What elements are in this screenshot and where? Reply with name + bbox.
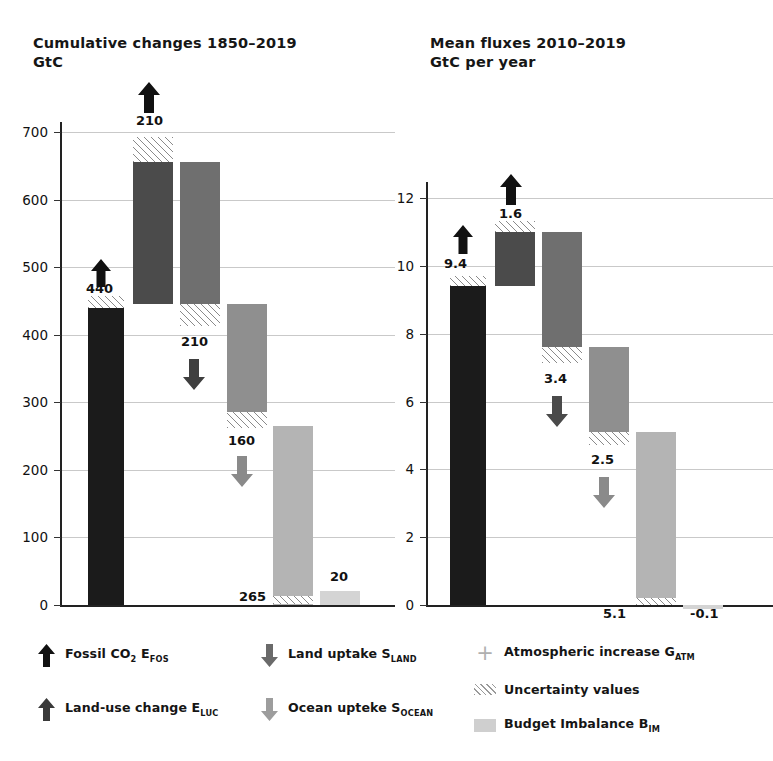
y-tick-label-0: 0: [8, 597, 48, 613]
uncertainty-hatch-ocean-uptake-right: [589, 432, 629, 445]
y-tick-200: [54, 470, 61, 471]
y-tick-6: [420, 402, 427, 403]
y-tick-label-100: 100: [8, 529, 48, 545]
arrow-up-darkgray-icon: [35, 696, 57, 722]
plus-glyph: +: [476, 643, 494, 664]
uncertainty-hatch-land-uptake-right: [542, 347, 582, 363]
legend-label-fossil: Fossil CO2 EFOS: [65, 646, 169, 664]
bar-ocean-uptake-right: [589, 347, 629, 432]
y-axis-cumulative: [60, 122, 62, 606]
legend-item-ocean-uptake[interactable]: Ocean upteke SOCEAN: [258, 696, 433, 722]
y-tick-4: [420, 469, 427, 470]
value-label-ocean-uptake: 160: [228, 433, 255, 448]
bar-fossil-right: [450, 286, 486, 605]
bar-ocean-uptake: [227, 304, 267, 412]
arrow-down-ocean-uptake: [229, 455, 255, 488]
legend-label-uncertainty: Uncertainty values: [504, 682, 640, 697]
value-label-budget-imbalance: 20: [330, 569, 348, 584]
uncertainty-hatch-ocean-uptake: [227, 412, 267, 428]
arrow-up-land-use-change-right: [498, 173, 524, 206]
value-label-fossil-right: 9.4: [444, 256, 467, 271]
value-label-budget-imbalance-right: -0.1: [690, 606, 718, 621]
legend-label-ocean-uptake: Ocean upteke SOCEAN: [288, 700, 433, 718]
uncertainty-hatch-fossil-right: [450, 276, 486, 286]
budget-imbalance-swatch-icon: [474, 712, 496, 738]
y-tick-700: [54, 132, 61, 133]
gridline-10: [426, 266, 773, 267]
arrow-up-fossil-right: [451, 224, 475, 255]
y-tick-400: [54, 335, 61, 336]
arrow-up-black-icon: [35, 642, 57, 668]
y-tick-label-500: 500: [8, 259, 48, 275]
y-tick-label-2: 2: [378, 529, 414, 545]
legend-item-land-uptake[interactable]: Land uptake SLAND: [258, 642, 417, 668]
plus-icon: +: [474, 640, 496, 666]
plot-area-mean-fluxes: 12 10 8 6 4 2 0 9.4 1.6 3.4: [378, 0, 773, 640]
value-label-land-uptake: 210: [181, 334, 208, 349]
legend-item-atmospheric-increase[interactable]: + Atmospheric increase GATM: [474, 640, 695, 666]
legend-item-land-use-change[interactable]: Land-use change ELUC: [35, 696, 218, 722]
value-label-land-uptake-right: 3.4: [544, 371, 567, 386]
y-tick-10: [420, 266, 427, 267]
arrow-down-land-uptake-right: [544, 395, 570, 428]
y-tick-0-right: [420, 605, 427, 606]
legend-item-budget-imbalance[interactable]: Budget Imbalance BIM: [474, 712, 660, 738]
arrow-up-land-use-change: [136, 81, 162, 114]
legend-label-land-uptake: Land uptake SLAND: [288, 646, 417, 664]
y-tick-label-6: 6: [378, 394, 414, 410]
y-tick-label-10: 10: [378, 258, 414, 274]
y-tick-12: [420, 198, 427, 199]
chart-panel-cumulative: Cumulative changes 1850–2019GtC 700 600 …: [0, 0, 395, 640]
plot-area-cumulative: 700 600 500 400 300 200 100 0 440 210 21…: [0, 0, 395, 640]
y-tick-label-0-right: 0: [378, 597, 414, 613]
value-label-ocean-uptake-right: 2.5: [591, 452, 614, 467]
value-label-atmospheric-increase-right: 5.1: [603, 606, 626, 621]
y-tick-300: [54, 402, 61, 403]
legend-item-uncertainty[interactable]: Uncertainty values: [474, 676, 640, 702]
y-tick-500: [54, 267, 61, 268]
gridline-12: [426, 198, 773, 199]
y-tick-2: [420, 537, 427, 538]
arrow-down-land-uptake: [181, 358, 207, 391]
legend-label-budget-imbalance: Budget Imbalance BIM: [504, 716, 660, 734]
hatch-swatch-icon: [474, 676, 496, 702]
y-tick-100: [54, 537, 61, 538]
bar-atmospheric-increase: [273, 426, 313, 605]
uncertainty-hatch-land-uptake: [180, 304, 220, 326]
value-label-fossil: 440: [86, 281, 113, 296]
value-label-land-use-change: 210: [136, 113, 163, 128]
y-tick-label-600: 600: [8, 192, 48, 208]
y-tick-label-12: 12: [378, 190, 414, 206]
legend-label-land-use-change: Land-use change ELUC: [65, 700, 218, 718]
bar-land-uptake: [180, 162, 220, 304]
y-axis-mean-fluxes: [426, 182, 428, 606]
gridline-600: [60, 200, 395, 201]
y-tick-0: [54, 605, 61, 606]
y-tick-label-700: 700: [8, 124, 48, 140]
value-label-land-use-change-right: 1.6: [499, 206, 522, 221]
arrow-down-lightgray-icon: [258, 696, 280, 722]
arrow-down-ocean-uptake-right: [591, 476, 617, 509]
bar-land-use-change-right: [495, 232, 535, 286]
budget-imbalance-swatch: [474, 719, 496, 732]
bar-budget-imbalance: [320, 591, 360, 605]
hatch-swatch: [474, 684, 496, 695]
value-label-atmospheric-increase: 265: [239, 589, 266, 604]
y-tick-600: [54, 200, 61, 201]
legend-item-fossil[interactable]: Fossil CO2 EFOS: [35, 642, 169, 668]
y-tick-8: [420, 334, 427, 335]
y-tick-label-200: 200: [8, 462, 48, 478]
x-axis-cumulative: [60, 605, 395, 607]
y-tick-label-300: 300: [8, 394, 48, 410]
y-tick-label-8: 8: [378, 326, 414, 342]
chart-panel-mean-fluxes: Mean fluxes 2010–2019GtC per year 12 10 …: [378, 0, 773, 640]
y-tick-label-4: 4: [378, 461, 414, 477]
arrow-down-gray-icon: [258, 642, 280, 668]
y-tick-label-400: 400: [8, 327, 48, 343]
legend-label-atmospheric-increase: Atmospheric increase GATM: [504, 644, 695, 662]
gridline-700: [60, 132, 395, 133]
bar-atmospheric-increase-right: [636, 432, 676, 605]
bar-land-uptake-right: [542, 232, 582, 347]
legend: Fossil CO2 EFOS Land-use change ELUC Lan…: [0, 636, 773, 761]
uncertainty-hatch-fossil: [88, 296, 124, 308]
